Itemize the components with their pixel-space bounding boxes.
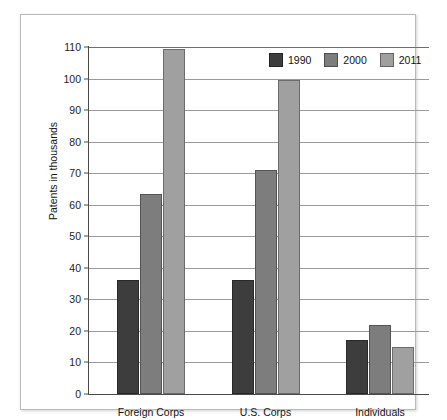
y-tick-mark-0 (84, 394, 89, 395)
bar-2000-foreign-corps[interactable] (140, 194, 162, 394)
chart-figure-frame: Patents in thousands 199020002011 010203… (20, 14, 416, 410)
y-tick-mark-110 (84, 47, 89, 48)
x-axis-label-foreign-corps: Foreign Corps (118, 406, 185, 418)
bar-1990-foreign-corps[interactable] (117, 280, 139, 394)
bar-2011-foreign-corps[interactable] (163, 49, 185, 394)
bar-2011-u-s-corps[interactable] (278, 80, 300, 394)
y-tick-mark-50 (84, 236, 89, 237)
y-tick-mark-80 (84, 141, 89, 142)
y-tick-label-110: 110 (64, 41, 81, 53)
x-axis-label-u-s-corps: U.S. Corps (240, 406, 291, 418)
y-tick-label-20: 20 (69, 325, 81, 337)
y-tick-label-90: 90 (69, 104, 81, 116)
y-tick-mark-40 (84, 267, 89, 268)
bar-2000-individuals[interactable] (369, 325, 391, 394)
y-tick-label-60: 60 (69, 199, 81, 211)
y-tick-label-50: 50 (69, 230, 81, 242)
y-tick-mark-90 (84, 110, 89, 111)
y-tick-label-0: 0 (75, 388, 81, 400)
bar-group-foreign-corps: Foreign Corps (117, 47, 186, 394)
y-axis-line (88, 46, 89, 394)
bar-2000-u-s-corps[interactable] (255, 170, 277, 394)
y-tick-label-40: 40 (69, 262, 81, 274)
x-axis-label-individuals: Individuals (355, 406, 405, 418)
y-tick-label-70: 70 (69, 167, 81, 179)
bar-group-u-s-corps: U.S. Corps (232, 47, 301, 394)
bar-1990-u-s-corps[interactable] (232, 280, 254, 394)
y-tick-mark-100 (84, 78, 89, 79)
bar-1990-individuals[interactable] (346, 340, 368, 394)
bar-2011-individuals[interactable] (392, 347, 414, 394)
y-tick-mark-10 (84, 362, 89, 363)
y-tick-label-10: 10 (69, 356, 81, 368)
y-tick-mark-70 (84, 173, 89, 174)
plot-area: 0102030405060708090100110Foreign CorpsU.… (89, 47, 429, 394)
y-tick-label-100: 100 (63, 73, 81, 85)
x-axis-line (88, 394, 429, 395)
y-tick-label-30: 30 (69, 293, 81, 305)
y-tick-mark-30 (84, 299, 89, 300)
bar-group-individuals: Individuals (346, 47, 415, 394)
y-tick-mark-60 (84, 204, 89, 205)
y-tick-mark-20 (84, 330, 89, 331)
y-tick-label-80: 80 (69, 136, 81, 148)
y-axis-title: Patents in thousands (47, 122, 59, 220)
